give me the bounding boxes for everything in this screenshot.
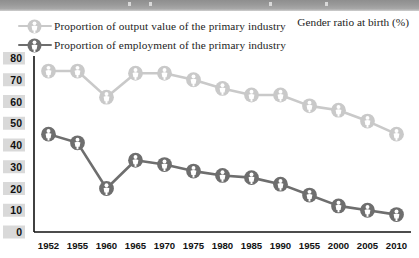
x-axis-tick-label: 1952 (38, 240, 59, 251)
y-axis-tick-label: 0 (16, 226, 22, 238)
person-circle-icon[interactable] (128, 66, 143, 81)
series-output-value (41, 64, 404, 142)
x-axis-tick-label: 1970 (154, 240, 175, 251)
y-axis-tick-label: 30 (10, 161, 22, 173)
y-axis-tick-label: 80 (10, 52, 22, 64)
chart-title: Gender ratio at birth (%) (297, 16, 409, 28)
person-circle-icon[interactable] (41, 127, 56, 142)
person-circle-icon[interactable] (331, 103, 346, 118)
line-chart: 0102030405060708019521955196019651970197… (0, 52, 419, 258)
person-circle-icon[interactable] (99, 90, 114, 105)
series-employment (41, 127, 404, 222)
person-circle-icon[interactable] (157, 66, 172, 81)
person-circle-icon[interactable] (157, 157, 172, 172)
x-axis-tick-label: 1985 (241, 240, 263, 251)
y-axis-tick-label: 50 (10, 117, 22, 129)
x-axis-tick-label: 1975 (183, 240, 205, 251)
legend-label-output-value: Proportion of output value of the primar… (54, 20, 286, 32)
person-circle-icon[interactable] (302, 188, 317, 203)
person-circle-icon[interactable] (215, 81, 230, 96)
chart-legend: Proportion of output value of the primar… (16, 16, 316, 54)
person-circle-icon[interactable] (41, 64, 56, 79)
series-line (49, 71, 397, 134)
person-circle-icon[interactable] (360, 114, 375, 129)
x-axis-tick-label: 1955 (299, 240, 321, 251)
plot-area: 0102030405060708019521955196019651970197… (0, 52, 419, 258)
person-circle-icon[interactable] (128, 153, 143, 168)
x-axis-tick-label: 1990 (270, 240, 291, 251)
x-axis-tick-label: 1955 (67, 240, 89, 251)
y-axis-tick-label: 10 (10, 204, 22, 216)
person-circle-icon[interactable] (70, 135, 85, 150)
legend-marker-employment (16, 37, 54, 53)
person-circle-icon[interactable] (360, 203, 375, 218)
person-circle-icon[interactable] (273, 88, 288, 103)
person-circle-icon[interactable] (244, 88, 259, 103)
legend-label-employment: Proportion of employment of the primary … (54, 39, 286, 51)
person-circle-icon[interactable] (70, 64, 85, 79)
person-circle-icon[interactable] (389, 207, 404, 222)
x-axis-tick-label: 1980 (212, 240, 233, 251)
y-axis-tick-label: 60 (10, 96, 22, 108)
chart-page: Proportion of output value of the primar… (0, 0, 419, 258)
y-axis-tick-label: 20 (10, 183, 22, 195)
person-circle-icon[interactable] (244, 170, 259, 185)
x-axis-tick-label: 2000 (328, 240, 349, 251)
legend-marker-output-value (16, 18, 54, 34)
person-circle-icon[interactable] (99, 181, 114, 196)
person-circle-icon[interactable] (331, 199, 346, 214)
person-circle-icon[interactable] (186, 164, 201, 179)
x-axis-tick-label: 2010 (386, 240, 407, 251)
person-circle-icon[interactable] (215, 168, 230, 183)
scan-artifact-band (0, 0, 419, 11)
person-circle-icon[interactable] (389, 127, 404, 142)
y-axis-tick-label: 40 (10, 139, 22, 151)
x-axis-tick-label: 1960 (96, 240, 117, 251)
y-axis-tick-label: 70 (10, 74, 22, 86)
x-axis-tick-label: 1965 (125, 240, 147, 251)
x-axis-tick-label: 2005 (357, 240, 379, 251)
person-circle-icon[interactable] (302, 98, 317, 113)
legend-item-output-value[interactable]: Proportion of output value of the primar… (16, 16, 316, 35)
person-circle-icon (27, 19, 42, 38)
person-circle-icon[interactable] (186, 72, 201, 87)
person-circle-icon[interactable] (273, 177, 288, 192)
